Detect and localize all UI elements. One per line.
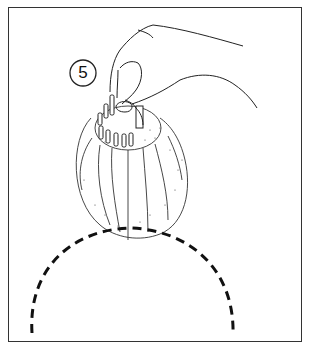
placement-outline-dashed-arc [32,228,233,335]
illustration [0,0,311,346]
dome-object [76,106,187,240]
hand-illustration [110,25,257,125]
step-number: 5 [70,60,96,86]
